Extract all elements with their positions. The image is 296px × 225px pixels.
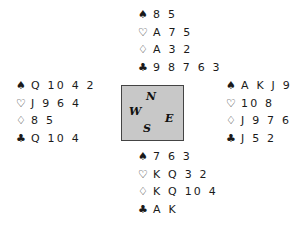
east-spades: ♠A K J 9 [226, 77, 292, 95]
south-spades: ♠7 6 3 [138, 148, 218, 166]
north-diamonds-cards: A 3 2 [153, 43, 193, 56]
east-clubs-cards: J 5 2 [241, 132, 276, 145]
west-clubs: ♣Q 10 4 [16, 130, 96, 148]
east-diamonds: ♢J 9 7 6 [226, 112, 292, 130]
spade-icon: ♠ [226, 77, 241, 95]
south-hand: ♠7 6 3 ♡K Q 3 2 ♢K Q 10 4 ♣A K [138, 148, 218, 218]
south-spades-cards: 7 6 3 [153, 150, 192, 163]
spade-icon: ♠ [138, 148, 153, 166]
south-clubs-cards: A K [153, 203, 178, 216]
north-hand: ♠8 5 ♡A 7 5 ♢A 3 2 ♣9 8 7 6 3 [138, 6, 222, 76]
east-hearts-cards: 10 8 [241, 97, 274, 110]
diamond-icon: ♢ [16, 112, 31, 130]
compass-east-label: E [165, 112, 173, 125]
heart-icon: ♡ [226, 95, 241, 113]
club-icon: ♣ [138, 59, 153, 77]
diamond-icon: ♢ [138, 41, 153, 59]
south-clubs: ♣A K [138, 201, 218, 219]
east-diamonds-cards: J 9 7 6 [241, 114, 291, 127]
north-spades-cards: 8 5 [153, 8, 177, 21]
east-spades-cards: A K J 9 [241, 79, 292, 92]
north-hearts-cards: A 7 5 [153, 26, 193, 39]
west-spades: ♠Q 10 4 2 [16, 77, 96, 95]
north-spades: ♠8 5 [138, 6, 222, 24]
compass-west-label: W [129, 105, 141, 118]
west-hand: ♠Q 10 4 2 ♡J 9 6 4 ♢8 5 ♣Q 10 4 [16, 77, 96, 147]
heart-icon: ♡ [138, 24, 153, 42]
west-spades-cards: Q 10 4 2 [31, 79, 96, 92]
east-hearts: ♡10 8 [226, 95, 292, 113]
east-hand: ♠A K J 9 ♡10 8 ♢J 9 7 6 ♣J 5 2 [226, 77, 292, 147]
north-clubs-cards: 9 8 7 6 3 [153, 61, 222, 74]
north-hearts: ♡A 7 5 [138, 24, 222, 42]
east-clubs: ♣J 5 2 [226, 130, 292, 148]
west-diamonds: ♢8 5 [16, 112, 96, 130]
diamond-icon: ♢ [226, 112, 241, 130]
west-hearts-cards: J 9 6 4 [31, 97, 81, 110]
club-icon: ♣ [16, 130, 31, 148]
south-diamonds: ♢K Q 10 4 [138, 183, 218, 201]
west-diamonds-cards: 8 5 [31, 114, 55, 127]
compass-south-label: S [143, 122, 151, 135]
club-icon: ♣ [226, 130, 241, 148]
north-diamonds: ♢A 3 2 [138, 41, 222, 59]
heart-icon: ♡ [16, 95, 31, 113]
south-hearts-cards: K Q 3 2 [153, 168, 209, 181]
heart-icon: ♡ [138, 166, 153, 184]
west-clubs-cards: Q 10 4 [31, 132, 81, 145]
south-hearts: ♡K Q 3 2 [138, 166, 218, 184]
north-clubs: ♣9 8 7 6 3 [138, 59, 222, 77]
south-diamonds-cards: K Q 10 4 [153, 185, 218, 198]
diamond-icon: ♢ [138, 183, 153, 201]
compass-box: N W E S [121, 85, 184, 141]
compass-north-label: N [146, 90, 156, 103]
spade-icon: ♠ [138, 6, 153, 24]
west-hearts: ♡J 9 6 4 [16, 95, 96, 113]
club-icon: ♣ [138, 201, 153, 219]
spade-icon: ♠ [16, 77, 31, 95]
